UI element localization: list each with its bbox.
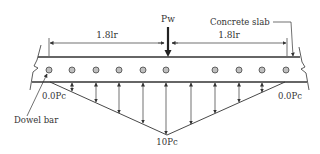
dowel-load-distribution-diagram: 1.8lr 1.8lr Pw Concrete slab Dowel bar 0…: [0, 0, 320, 154]
load-arrowhead-icon: [165, 50, 172, 57]
dowel-label: Dowel bar: [14, 115, 59, 125]
peak-value: 10Pc: [156, 137, 178, 147]
right-span-label: 1.8lr: [218, 30, 240, 40]
left-break-line-icon: [30, 45, 41, 90]
load-distribution-triangle: [50, 82, 285, 135]
dowel-bars: [46, 67, 289, 73]
slab-leader-line: [273, 22, 293, 56]
dowel-reaction-arrows: [72, 83, 262, 134]
load-label: Pw: [161, 14, 175, 24]
right-edge-value: 0.0Pc: [278, 91, 302, 101]
right-break-line-icon: [299, 47, 309, 90]
left-span-label: 1.8lr: [96, 30, 118, 40]
slab-label: Concrete slab: [210, 17, 270, 27]
left-edge-value: 0.0Pc: [42, 91, 66, 101]
load-arrow: [165, 27, 172, 57]
